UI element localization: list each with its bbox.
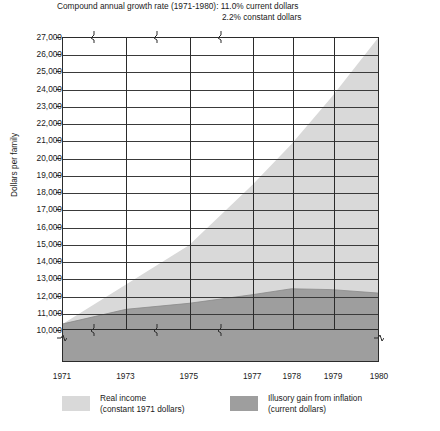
axis-break-mark [57, 332, 67, 344]
axis-break-mark [216, 31, 226, 43]
axis-break-mark [216, 324, 226, 336]
x-tick-label: 1977 [232, 371, 272, 381]
axis-break-mark [374, 332, 384, 344]
x-tick-label: 1979 [313, 371, 353, 381]
axis-break-mark [152, 324, 162, 336]
legend-label-illusory-gain-line1: Illusory gain from inflation [268, 393, 362, 404]
x-tick-label: 1980 [359, 371, 399, 381]
legend-label-real-income-line2: (constant 1971 dollars) [100, 404, 184, 415]
x-tick-label: 1975 [169, 371, 209, 381]
chart-legend: Real income (constant 1971 dollars) Illu… [62, 393, 440, 425]
x-tick-label: 1978 [272, 371, 312, 381]
axis-break-mark [89, 31, 99, 43]
x-tick-label: 1971 [42, 371, 82, 381]
legend-label-illusory-gain: Illusory gain from inflation (current do… [268, 393, 362, 415]
legend-swatch-real-income [62, 396, 90, 411]
axis-break-mark [152, 31, 162, 43]
legend-label-real-income-line1: Real income [100, 393, 184, 404]
legend-swatch-illusory-gain [230, 396, 258, 411]
x-axis-ticks: 1971197319751977197819791980 [0, 0, 440, 431]
legend-label-real-income: Real income (constant 1971 dollars) [100, 393, 184, 415]
axis-break-mark [89, 324, 99, 336]
x-tick-label: 1973 [105, 371, 145, 381]
legend-label-illusory-gain-line2: (current dollars) [268, 404, 362, 415]
